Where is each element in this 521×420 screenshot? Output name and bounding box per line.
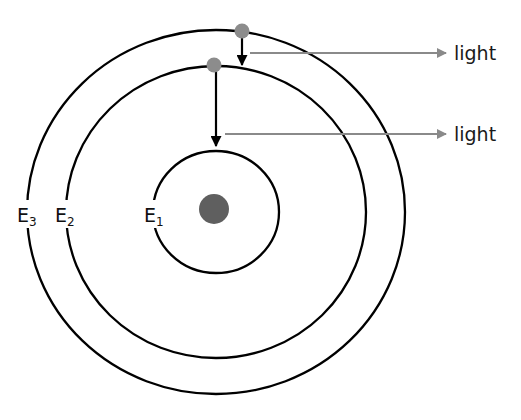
electron-e2 (207, 58, 222, 73)
electron-e3 (235, 24, 250, 39)
light-label-2: light (454, 123, 496, 145)
light-label-1: light (454, 42, 496, 64)
nucleus (199, 194, 229, 224)
bohr-atom-diagram: E3 E2 E1 light light (0, 0, 521, 420)
